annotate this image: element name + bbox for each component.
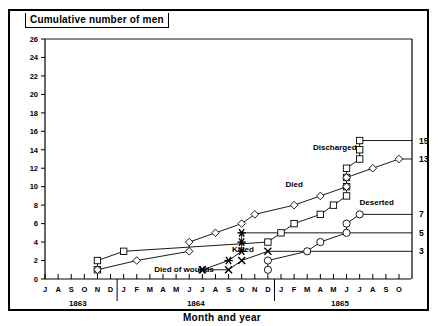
series-label-killed: Killed <box>232 245 254 254</box>
y-tick-label: 4 <box>34 238 39 247</box>
marker-diamond <box>395 155 403 163</box>
right-axis-label: 5 <box>419 228 424 238</box>
x-month-label: J <box>200 285 204 294</box>
marker-diamond <box>185 248 193 256</box>
x-month-label: M <box>173 285 179 294</box>
right-axis-label: 7 <box>419 209 424 219</box>
marker-square <box>317 211 323 217</box>
series-label-died: Died <box>285 180 302 189</box>
marker-circle <box>356 211 363 218</box>
series-deserted <box>264 211 363 274</box>
x-axis-title: Month and year <box>183 312 261 323</box>
marker-square <box>278 230 284 236</box>
x-month-label: J <box>187 285 191 294</box>
x-month-label: M <box>304 285 310 294</box>
x-month-label: J <box>122 285 126 294</box>
x-year-label: 1863 <box>69 299 87 308</box>
marker-circle <box>264 257 271 264</box>
y-axis-tick-labels: 02468101214161820222426 <box>30 35 39 284</box>
marker-square <box>94 257 100 263</box>
right-axis-label: 15 <box>419 136 429 146</box>
marker-diamond <box>185 238 193 246</box>
x-month-label: A <box>213 285 219 294</box>
x-month-label: D <box>265 285 271 294</box>
y-tick-label: 14 <box>30 146 39 155</box>
chart-canvas: 02468101214161820222426 1513753 JASONDJF… <box>0 0 439 326</box>
marker-diamond <box>212 229 220 237</box>
series-label-discharged: Discharged <box>313 143 357 152</box>
x-month-label: J <box>344 285 348 294</box>
marker-diamond <box>369 164 377 172</box>
chart-figure: Cumulative number of men 024681012141618… <box>0 0 439 326</box>
y-tick-label: 24 <box>30 53 39 62</box>
x-month-label: O <box>81 285 87 294</box>
x-month-label: N <box>252 285 257 294</box>
y-tick-label: 16 <box>30 127 38 136</box>
x-month-label: A <box>370 285 376 294</box>
x-month-label: F <box>292 285 297 294</box>
marker-diamond <box>133 257 141 265</box>
marker-square <box>330 202 336 208</box>
y-tick-label: 10 <box>30 182 38 191</box>
x-month-label: A <box>55 285 61 294</box>
right-axis-tick-labels: 1513753 <box>419 136 429 257</box>
marker-circle <box>343 229 350 236</box>
y-tick-label: 22 <box>30 72 38 81</box>
x-month-label: A <box>160 285 166 294</box>
marker-diamond <box>251 211 259 219</box>
series-label-deserted: Deserted <box>360 198 394 207</box>
marker-circle <box>317 238 324 245</box>
x-year-label: 1864 <box>187 299 205 308</box>
marker-circle <box>343 220 350 227</box>
x-month-label: O <box>239 285 245 294</box>
right-axis-label: 3 <box>419 246 424 256</box>
x-month-label: M <box>147 285 153 294</box>
marker-square <box>120 248 126 254</box>
marker-square <box>343 165 349 171</box>
right-axis-label: 13 <box>419 154 429 164</box>
series-line <box>97 141 359 270</box>
x-year-label: 1865 <box>331 299 349 308</box>
y-tick-label: 12 <box>30 164 38 173</box>
x-month-label: D <box>108 285 114 294</box>
x-month-label: J <box>358 285 362 294</box>
series-label-died-of-wounds: Died of wounds <box>154 265 214 274</box>
marker-circle <box>304 248 311 255</box>
y-tick-label: 6 <box>34 219 38 228</box>
marker-square <box>265 239 271 245</box>
x-axis-year-labels: 186318641865 <box>69 299 350 308</box>
marker-square <box>356 156 362 162</box>
marker-circle <box>264 266 271 273</box>
reference-lines-group <box>242 141 412 252</box>
x-axis-month-labels: JASONDJFMAMJJASONDJFMAMJJASO <box>43 285 402 294</box>
y-tick-label: 0 <box>34 275 38 284</box>
x-month-label: M <box>330 285 336 294</box>
x-month-label: A <box>318 285 324 294</box>
x-month-label: S <box>69 285 74 294</box>
marker-square <box>356 137 362 143</box>
x-month-label: F <box>134 285 139 294</box>
x-month-label: J <box>279 285 283 294</box>
y-tick-label: 8 <box>34 201 38 210</box>
x-month-label: S <box>226 285 231 294</box>
y-tick-label: 2 <box>34 256 38 265</box>
x-month-label: O <box>396 285 402 294</box>
x-month-label: S <box>383 285 388 294</box>
marker-square <box>343 193 349 199</box>
marker-diamond <box>290 201 298 209</box>
x-month-label: J <box>43 285 47 294</box>
marker-diamond <box>317 192 325 200</box>
x-month-label: N <box>95 285 100 294</box>
y-tick-label: 18 <box>30 109 38 118</box>
marker-diamond <box>238 220 246 228</box>
marker-square <box>291 220 297 226</box>
y-tick-label: 20 <box>30 90 38 99</box>
marker-square <box>356 147 362 153</box>
y-tick-label: 26 <box>30 35 38 44</box>
series-discharged <box>94 137 363 273</box>
